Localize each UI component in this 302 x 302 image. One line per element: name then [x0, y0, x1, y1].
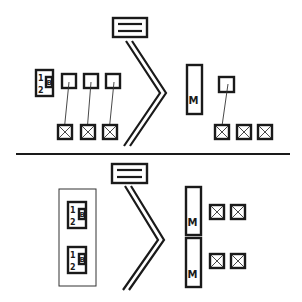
m-label: M	[188, 269, 198, 280]
top-left-x-boxes	[58, 125, 117, 139]
top-panel: 1 2 B	[36, 18, 272, 146]
top-chevron-connector	[124, 41, 166, 146]
unit-label-2: 2	[70, 263, 76, 272]
x-box	[210, 254, 224, 268]
x-box	[58, 125, 72, 139]
bottom-unit-box: 1 2 B	[68, 202, 86, 228]
top-right-x-boxes	[215, 125, 272, 139]
x-box	[103, 125, 117, 139]
x-box	[258, 125, 272, 139]
top-legend-box	[113, 18, 147, 37]
m-label: M	[189, 95, 199, 106]
top-m-box: M	[187, 65, 202, 114]
unit-label-2: 2	[70, 218, 76, 227]
bottom-panel: 1 2 B 1 2 B M M	[59, 164, 245, 290]
bottom-chevron-connector	[123, 186, 164, 290]
right-small-box	[219, 77, 234, 92]
small-box	[106, 74, 120, 88]
bottom-legend-box	[112, 164, 147, 183]
top-unit-box: 1 2 B	[36, 70, 53, 96]
bottom-m-box: M	[186, 238, 201, 287]
bottom-m-box: M	[186, 187, 201, 235]
x-box	[237, 125, 251, 139]
x-box	[215, 125, 229, 139]
bottom-unit-box: 1 2 B	[68, 247, 86, 273]
bottom-x-boxes-row-1	[210, 205, 245, 219]
m-label: M	[188, 217, 198, 228]
unit-label-b: B	[80, 211, 85, 219]
x-box	[210, 205, 224, 219]
x-box	[231, 254, 245, 268]
unit-label-b: B	[47, 79, 52, 87]
x-box	[231, 205, 245, 219]
unit-label-1: 1	[70, 206, 76, 215]
unit-label-2: 2	[38, 86, 44, 95]
unit-label-1: 1	[70, 251, 76, 260]
unit-label-1: 1	[38, 74, 44, 83]
diagram-canvas: 1 2 B	[0, 0, 302, 302]
unit-label-b: B	[80, 256, 85, 264]
bottom-x-boxes-row-2	[210, 254, 245, 268]
x-box	[81, 125, 95, 139]
